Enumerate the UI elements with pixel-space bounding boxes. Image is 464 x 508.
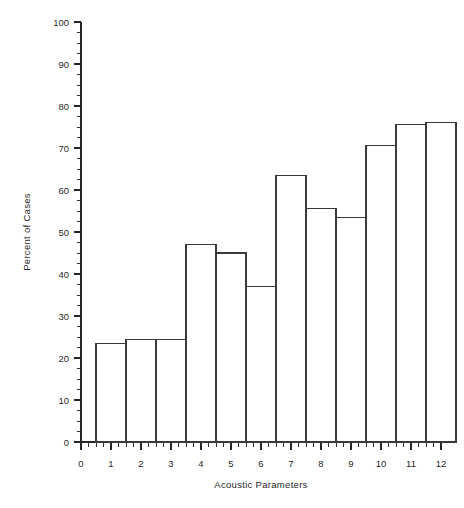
bar — [96, 343, 126, 442]
y-tick-label: 60 — [58, 185, 69, 196]
x-tick-label: 5 — [228, 458, 233, 469]
y-tick-label: 100 — [53, 17, 69, 28]
x-tick-label: 1 — [108, 458, 113, 469]
x-tick-label: 2 — [138, 458, 143, 469]
y-tick-label: 10 — [58, 395, 69, 406]
y-tick-label: 80 — [58, 101, 69, 112]
bar — [396, 125, 426, 442]
bar — [336, 217, 366, 442]
y-tick-label: 40 — [58, 269, 69, 280]
x-tick-label: 11 — [406, 458, 416, 469]
bar — [366, 146, 396, 442]
x-tick-label: 4 — [198, 458, 203, 469]
y-tick-label: 20 — [58, 353, 69, 364]
x-tick-label: 10 — [376, 458, 387, 469]
x-tick-label: 8 — [318, 458, 323, 469]
y-tick-label: 30 — [58, 311, 69, 322]
y-tick-label: 0 — [64, 437, 69, 448]
x-tick-label: 0 — [78, 458, 83, 469]
x-tick-label: 6 — [258, 458, 263, 469]
chart-canvas: 01020304050607080901000123456789101112Ac… — [0, 0, 464, 508]
y-tick-label: 50 — [58, 227, 69, 238]
x-tick-label: 12 — [436, 458, 447, 469]
bar-series — [96, 123, 456, 442]
x-tick-label: 3 — [168, 458, 173, 469]
bar — [306, 209, 336, 442]
y-tick-label: 90 — [58, 59, 69, 70]
bar — [426, 123, 456, 442]
bar — [276, 175, 306, 442]
bar — [216, 253, 246, 442]
y-axis-title: Percent of Cases — [21, 193, 32, 271]
bar — [186, 245, 216, 442]
x-axis-title: Acoustic Parameters — [214, 479, 307, 490]
bar — [126, 339, 156, 442]
x-tick-label: 7 — [288, 458, 293, 469]
histogram-chart: 01020304050607080901000123456789101112Ac… — [0, 0, 464, 508]
bar — [246, 287, 276, 442]
x-tick-label: 9 — [348, 458, 353, 469]
y-tick-label: 70 — [58, 143, 69, 154]
bar — [156, 339, 186, 442]
